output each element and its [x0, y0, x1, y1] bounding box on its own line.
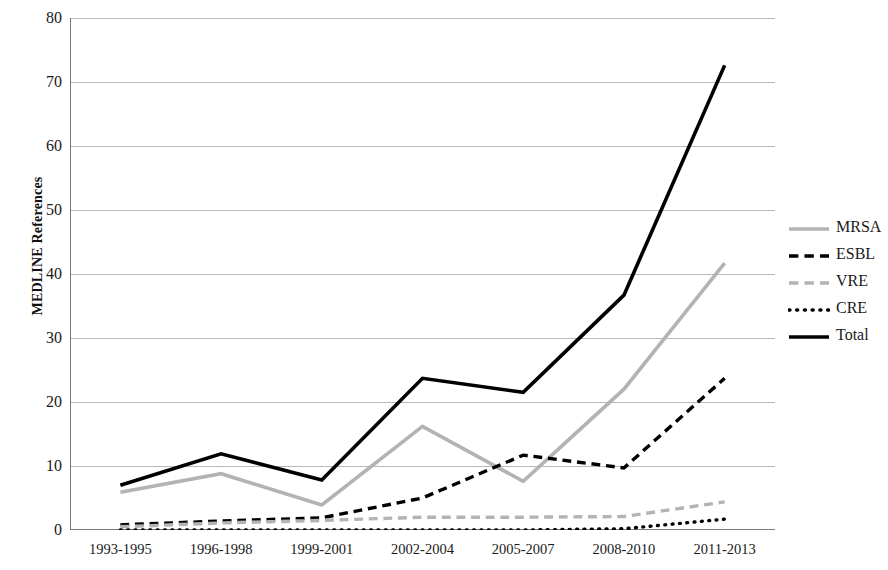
legend-swatch-esbl-icon	[788, 248, 830, 260]
y-axis-tick-label: 80	[22, 10, 62, 26]
x-axis-tick-label: 1996-1998	[166, 541, 276, 557]
x-axis-tick-label: 1999-2001	[267, 541, 377, 557]
y-axis-tick-label: 70	[22, 74, 62, 90]
y-axis-tick-label: 40	[22, 266, 62, 282]
y-axis-tick-label: 0	[22, 522, 62, 538]
legend-item-cre[interactable]: CRE	[788, 294, 888, 321]
legend-swatch-vre-icon	[788, 275, 830, 287]
x-axis-tick-label: 2008-2010	[569, 541, 679, 557]
plot-area	[70, 18, 775, 530]
series-line-vre	[120, 502, 724, 527]
medline-references-line-chart: MEDLINE References 80706050403020100 199…	[0, 0, 888, 570]
legend-label: CRE	[836, 300, 867, 316]
x-axis-tick-label: 2002-2004	[368, 541, 478, 557]
legend-item-mrsa[interactable]: MRSA	[788, 213, 888, 240]
series-line-mrsa	[120, 263, 724, 505]
plot-svg	[70, 18, 775, 530]
y-axis-tick-label: 50	[22, 202, 62, 218]
chart-legend: MRSAESBLVRECRETotal	[788, 213, 888, 348]
legend-swatch-cre-icon	[788, 302, 830, 314]
legend-label: Total	[836, 327, 869, 343]
legend-item-vre[interactable]: VRE	[788, 267, 888, 294]
x-axis-tick-label: 1993-1995	[65, 541, 175, 557]
y-axis-tick-label: 20	[22, 394, 62, 410]
legend-label: VRE	[836, 273, 868, 289]
x-axis-tick-label: 2011-2013	[670, 541, 780, 557]
legend-swatch-total-icon	[788, 329, 830, 341]
y-axis-tick-label: 10	[22, 458, 62, 474]
x-axis-tick-label: 2005-2007	[468, 541, 578, 557]
y-axis-tick-labels: 80706050403020100	[14, 0, 62, 570]
series-line-total	[120, 65, 724, 485]
legend-label: MRSA	[836, 219, 881, 235]
series-line-esbl	[120, 378, 724, 525]
legend-item-esbl[interactable]: ESBL	[788, 240, 888, 267]
legend-label: ESBL	[836, 246, 875, 262]
y-axis-tick-label: 30	[22, 330, 62, 346]
legend-swatch-mrsa-icon	[788, 221, 830, 233]
y-axis-tick-label: 60	[22, 138, 62, 154]
legend-item-total[interactable]: Total	[788, 321, 888, 348]
